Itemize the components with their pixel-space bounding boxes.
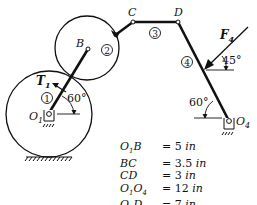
dimension-row-o1o4: O1O4 = 12 in bbox=[120, 183, 206, 200]
svg-text:4: 4 bbox=[184, 58, 190, 68]
link-number-4: 4 bbox=[182, 57, 193, 68]
dimension-row-o4d: O4D = 7 in bbox=[120, 199, 206, 205]
label-o4: O4 bbox=[236, 115, 250, 130]
pin-d bbox=[176, 20, 180, 24]
pin-b bbox=[86, 47, 90, 51]
label-f4: F4 bbox=[219, 28, 235, 44]
label-b: B bbox=[75, 37, 84, 50]
angle-label-f4: 45° bbox=[222, 54, 242, 67]
svg-text:2: 2 bbox=[104, 46, 110, 56]
link-number-1: 1 bbox=[42, 93, 53, 104]
link-number-2: 2 bbox=[102, 45, 113, 56]
angle-label-o1: 60° bbox=[67, 92, 87, 105]
svg-text:1: 1 bbox=[44, 94, 50, 104]
angle-label-o4: 60° bbox=[189, 96, 209, 109]
dimension-row-o1b: O1B = 5 in bbox=[120, 141, 206, 158]
svg-text:3: 3 bbox=[152, 29, 158, 39]
pin-c bbox=[131, 20, 135, 24]
dimension-table: O1B = 5 in BC = 3.5 in CD = 3 in O1O4 = … bbox=[120, 141, 206, 205]
support-o4 bbox=[222, 118, 234, 135]
label-d: D bbox=[173, 6, 183, 19]
label-o1: O1 bbox=[29, 110, 43, 125]
link-number-3: 3 bbox=[150, 28, 161, 39]
label-t1: T1 bbox=[36, 74, 51, 90]
label-c: C bbox=[128, 6, 137, 19]
support-o1 bbox=[43, 110, 54, 127]
